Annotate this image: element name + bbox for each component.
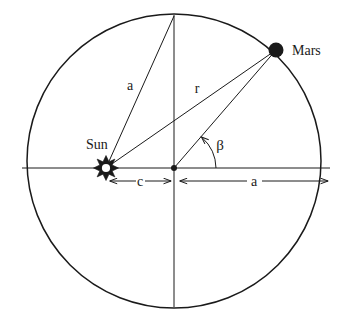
orbit-diagram: Sun Mars a r β c a xyxy=(0,0,343,322)
center-to-mars-line xyxy=(174,50,276,168)
eccentric-distance-label: c xyxy=(137,174,143,189)
mars-label: Mars xyxy=(292,43,321,58)
mars-body-dot xyxy=(269,43,284,58)
beta-angle-label: β xyxy=(216,137,224,153)
semi-major-right-label: a xyxy=(251,174,258,189)
orbit-diagram-canvas: Sun Mars a r β c a xyxy=(0,0,343,322)
sun-starburst-icon xyxy=(94,156,119,181)
radius-vector-label: r xyxy=(195,81,200,96)
orbit-center-point xyxy=(171,165,177,171)
beta-angle-arc xyxy=(202,138,216,169)
sun-to-apex-line xyxy=(106,16,174,168)
sun-to-mars-line xyxy=(106,50,276,168)
semi-major-upper-label: a xyxy=(127,78,134,93)
sun-label: Sun xyxy=(86,137,108,152)
